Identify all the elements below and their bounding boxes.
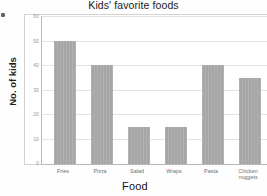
bar-wraps bbox=[165, 127, 187, 164]
chart-screenshot: Kids' favorite foods No. of kids 60 50 4… bbox=[0, 0, 267, 196]
y-tick-10: 10 bbox=[23, 137, 39, 142]
x-label-fries: Fries bbox=[44, 168, 82, 174]
y-axis-title: No. of kids bbox=[7, 47, 18, 117]
bar-pizza bbox=[91, 65, 113, 164]
x-label-pasta: Pasta bbox=[192, 168, 230, 174]
y-axis-tick-labels: 60 50 40 30 20 10 0 bbox=[20, 16, 39, 164]
bar-fries bbox=[54, 41, 76, 164]
y-tick-20: 20 bbox=[23, 112, 39, 117]
y-tick-30: 30 bbox=[23, 88, 39, 93]
y-tick-40: 40 bbox=[23, 63, 39, 68]
x-label-wraps: Wraps bbox=[155, 168, 193, 174]
y-tick-50: 50 bbox=[23, 39, 39, 44]
x-label-nuggets: Chicken nuggets bbox=[229, 168, 267, 180]
scan-artifact bbox=[1, 13, 5, 17]
gridline-60 bbox=[42, 16, 267, 17]
x-axis-title: Food bbox=[24, 180, 246, 192]
bar-salad bbox=[128, 127, 150, 164]
x-axis-baseline bbox=[42, 164, 267, 165]
y-tick-0: 0 bbox=[23, 161, 39, 166]
plot-area bbox=[42, 16, 267, 164]
x-label-pizza: Pizza bbox=[81, 168, 119, 174]
x-label-salad: Salad bbox=[118, 168, 156, 174]
bar-nuggets bbox=[239, 78, 261, 164]
bar-pasta bbox=[202, 65, 224, 164]
y-tick-60: 60 bbox=[23, 14, 39, 19]
chart-title: Kids' favorite foods bbox=[0, 0, 267, 11]
